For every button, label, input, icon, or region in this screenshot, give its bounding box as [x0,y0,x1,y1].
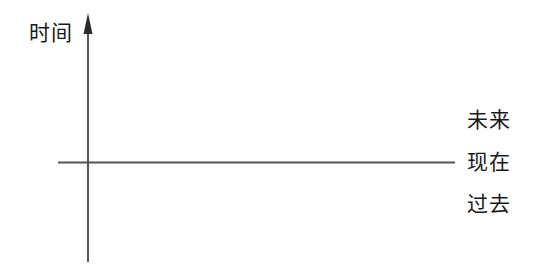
up-arrow-icon [84,13,93,34]
label-future: 未来 [467,110,511,131]
vertical-axis-label: 时间 [29,23,73,44]
time-axis-diagram: 时间 未来 现在 过去 [0,0,536,269]
axis-graphics [0,0,536,269]
label-present: 现在 [467,152,511,173]
label-past: 过去 [467,194,511,215]
